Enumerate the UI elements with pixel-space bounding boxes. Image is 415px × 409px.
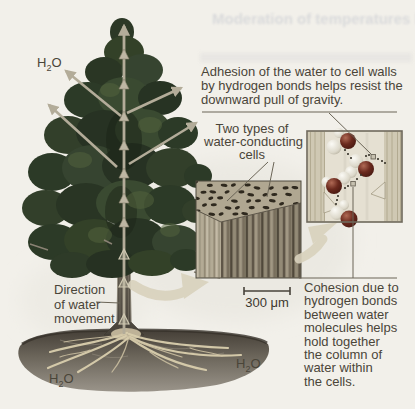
h2o-label-bottom-left: H2O xyxy=(49,372,74,386)
h2o-o: O xyxy=(51,55,61,70)
two-types-line-3: cells xyxy=(204,148,300,161)
cohesion-line-5: hold together xyxy=(304,335,399,348)
cohesion-line-3: between water xyxy=(304,308,399,321)
adhesion-caption: Adhesion of the water to cell walls by h… xyxy=(201,65,403,106)
h2o-h: H xyxy=(37,55,46,70)
direction-of-water-label: Direction of water movement xyxy=(54,283,115,327)
adhesion-point-marker xyxy=(371,155,376,160)
direction-line-1: Direction xyxy=(54,283,115,298)
direction-line-3: movement xyxy=(54,312,115,327)
cohesion-caption: Cohesion due to hydrogen bonds between w… xyxy=(304,281,399,388)
cohesion-line-4: molecules helps xyxy=(304,321,399,334)
h2o-label-bottom-right: H2O xyxy=(236,357,261,371)
scale-bar-label: 300 μm xyxy=(240,296,294,310)
cohesion-point-marker xyxy=(351,182,356,187)
cohesion-line-8: the cells. xyxy=(304,375,399,388)
adhesion-line-2: by hydrogen bonds helps resist the xyxy=(201,79,403,93)
cohesion-line-2: hydrogen bonds xyxy=(304,294,399,307)
adhesion-line-1: Adhesion of the water to cell walls xyxy=(201,65,403,79)
figure-water-transport-in-tree: Moderation of temperatures by wat xyxy=(0,0,415,409)
cohesion-line-7: water within xyxy=(304,361,399,374)
cohesion-line-1: Cohesion due to xyxy=(304,281,399,294)
adhesion-line-3: downward pull of gravity. xyxy=(201,93,403,107)
cohesion-line-6: the column of xyxy=(304,348,399,361)
h2o-label-top: H2O xyxy=(37,56,62,70)
direction-line-2: of water xyxy=(54,298,115,313)
xylem-micrograph xyxy=(193,180,303,278)
cohesion-adhesion-panel xyxy=(307,128,402,228)
two-types-label: Two types of water-conducting cells xyxy=(204,122,300,161)
